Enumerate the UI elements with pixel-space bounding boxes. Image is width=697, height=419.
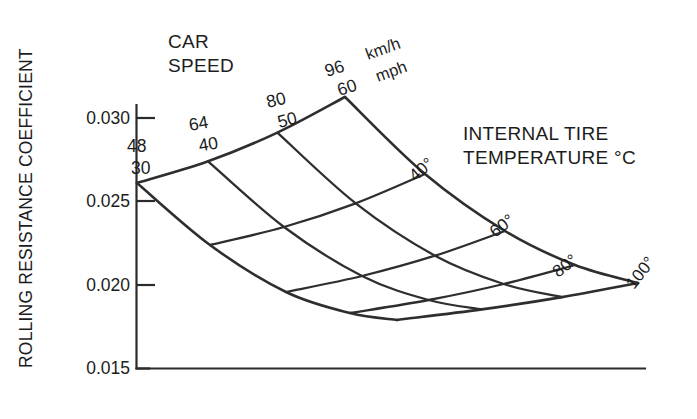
speed-label-mph-60: 60 — [335, 75, 360, 100]
speed-label-kmh-80: 80 — [264, 88, 288, 112]
speed-label-96-60: 96 60 — [322, 54, 359, 102]
y-tick-label-0030: 0.030 — [86, 108, 130, 128]
temp-label-100: 100° — [622, 253, 659, 292]
car-speed-heading-line2: SPEED — [168, 55, 234, 76]
speed-label-48-30: 48 30 — [127, 136, 151, 178]
temperature-rib-60deg — [286, 231, 505, 292]
rolling-resistance-surface-chart: 0.030 0.025 0.020 0.015 ROLLING RESISTAN… — [0, 0, 697, 419]
y-tick-label-0015: 0.015 — [86, 358, 130, 378]
car-speed-heading-line1: CAR — [168, 31, 209, 52]
speed-label-mph-30: 30 — [131, 158, 151, 178]
temp-label-100-text: 100° — [622, 253, 659, 292]
speed-unit-mph-text: mph — [373, 57, 409, 85]
y-tick-labels: 0.030 0.025 0.020 0.015 — [86, 108, 130, 378]
y-tick-label-0025: 0.025 — [86, 191, 130, 211]
speed-label-mph-50: 50 — [275, 108, 299, 132]
temperature-heading: INTERNAL TIRE TEMPERATURE °C — [463, 123, 636, 168]
temperature-heading-line2: TEMPERATURE °C — [463, 147, 636, 168]
chart-container: 0.030 0.025 0.020 0.015 ROLLING RESISTAN… — [0, 0, 697, 419]
temperature-heading-line1: INTERNAL TIRE — [463, 123, 608, 144]
y-axis-title: ROLLING RESISTANCE COEFFICIENT — [16, 48, 36, 368]
speed-label-64-40: 64 40 — [187, 111, 220, 157]
temp-labels-group: 40° 60° 80° 100° — [405, 154, 658, 292]
car-speed-heading: CAR SPEED — [168, 31, 234, 76]
speed-label-mph-40: 40 — [197, 132, 220, 155]
speed-label-80-50: 80 50 — [264, 86, 299, 133]
y-tick-label-0020: 0.020 — [86, 275, 130, 295]
temperature-rib-30deg — [137, 97, 345, 183]
speed-label-kmh-64: 64 — [187, 112, 210, 135]
speed-label-kmh-48: 48 — [127, 136, 146, 156]
speed-label-kmh-96: 96 — [322, 56, 347, 81]
temperature-rib-40deg — [210, 174, 425, 245]
speed-unit-mph: mph — [373, 57, 409, 85]
